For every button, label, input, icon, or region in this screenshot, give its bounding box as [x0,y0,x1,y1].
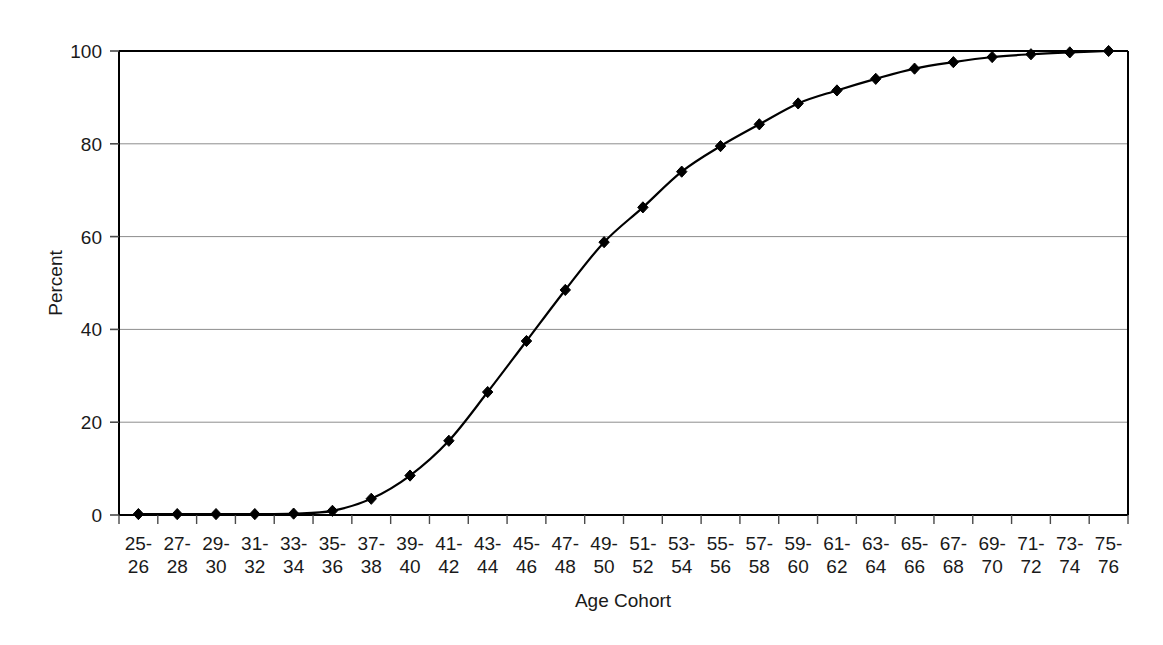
x-tick-label: 31- [241,533,268,554]
y-axis-tick-labels: 020406080100 [70,41,102,526]
x-tick-label: 71- [1017,533,1044,554]
x-tick-label: 54 [671,556,693,577]
x-tick-label: 68 [943,556,964,577]
x-tick-label: 27- [163,533,190,554]
data-point-marker [211,508,221,519]
gridlines [119,144,1128,422]
data-point-marker [715,141,725,152]
x-tick-label: 36 [322,556,343,577]
x-tick-label: 49- [590,533,617,554]
data-point-marker [250,508,260,519]
x-tick-label: 72 [1020,556,1041,577]
x-tick-label: 76 [1098,556,1119,577]
y-axis-title: Percent [45,250,66,316]
x-tick-label: 61- [823,533,850,554]
x-tick-label: 34 [283,556,305,577]
data-point-marker [948,57,958,68]
x-tick-label: 26 [128,556,149,577]
x-tick-label: 40 [399,556,420,577]
x-axis-tick-labels: 25-2627-2829-3031-3233-3435-3637-3839-40… [125,533,1123,577]
x-tick-label: 46 [516,556,537,577]
data-point-marker [832,85,842,96]
x-tick-label: 42 [438,556,459,577]
x-tick-label: 29- [202,533,229,554]
x-tick-label: 59- [784,533,811,554]
data-point-marker [1065,47,1075,58]
line-chart: 020406080100 25-2627-2829-3031-3233-3435… [0,0,1163,645]
data-point-marker [871,73,881,84]
data-point-marker [366,493,376,504]
x-tick-label: 33- [280,533,307,554]
x-tick-label: 55- [707,533,734,554]
x-tick-label: 58 [749,556,770,577]
x-tick-label: 69- [978,533,1005,554]
x-axis-title: Age Cohort [575,590,672,611]
y-tick-label: 100 [70,41,102,62]
x-tick-label: 75- [1095,533,1122,554]
data-point-markers [133,45,1114,519]
x-tick-label: 37- [358,533,385,554]
x-axis-ticks [119,515,1128,524]
data-series-line [138,51,1108,514]
x-tick-label: 67- [940,533,967,554]
x-tick-label: 38 [361,556,382,577]
x-tick-label: 74 [1059,556,1081,577]
x-tick-label: 28 [167,556,188,577]
x-tick-label: 51- [629,533,656,554]
x-tick-label: 56 [710,556,731,577]
x-tick-label: 63- [862,533,889,554]
x-tick-label: 32 [244,556,265,577]
x-tick-label: 52 [632,556,653,577]
y-axis-ticks [110,51,119,515]
x-tick-label: 62 [826,556,847,577]
data-point-marker [133,508,143,519]
y-tick-label: 40 [81,319,102,340]
data-point-marker [172,508,182,519]
data-point-marker [754,119,764,130]
x-tick-label: 43- [474,533,501,554]
x-tick-label: 53- [668,533,695,554]
y-tick-label: 0 [91,505,102,526]
x-tick-label: 30 [205,556,226,577]
y-tick-label: 60 [81,227,102,248]
x-tick-label: 41- [435,533,462,554]
x-tick-label: 60 [788,556,809,577]
y-tick-label: 20 [81,412,102,433]
x-tick-label: 39- [396,533,423,554]
x-tick-label: 64 [865,556,887,577]
x-tick-label: 45- [513,533,540,554]
x-tick-label: 66 [904,556,925,577]
plot-frame [119,51,1128,515]
x-tick-label: 25- [125,533,152,554]
x-tick-label: 57- [746,533,773,554]
x-tick-label: 73- [1056,533,1083,554]
x-tick-label: 70 [982,556,1003,577]
x-tick-label: 65- [901,533,928,554]
x-tick-label: 50 [594,556,615,577]
data-point-marker [793,98,803,109]
data-point-marker [1103,45,1113,56]
x-tick-label: 44 [477,556,499,577]
x-tick-label: 48 [555,556,576,577]
x-tick-label: 47- [552,533,579,554]
chart-page: 020406080100 25-2627-2829-3031-3233-3435… [0,0,1163,645]
y-tick-label: 80 [81,134,102,155]
data-point-marker [987,51,997,62]
data-point-marker [288,508,298,519]
x-tick-label: 35- [319,533,346,554]
data-point-marker [909,63,919,74]
